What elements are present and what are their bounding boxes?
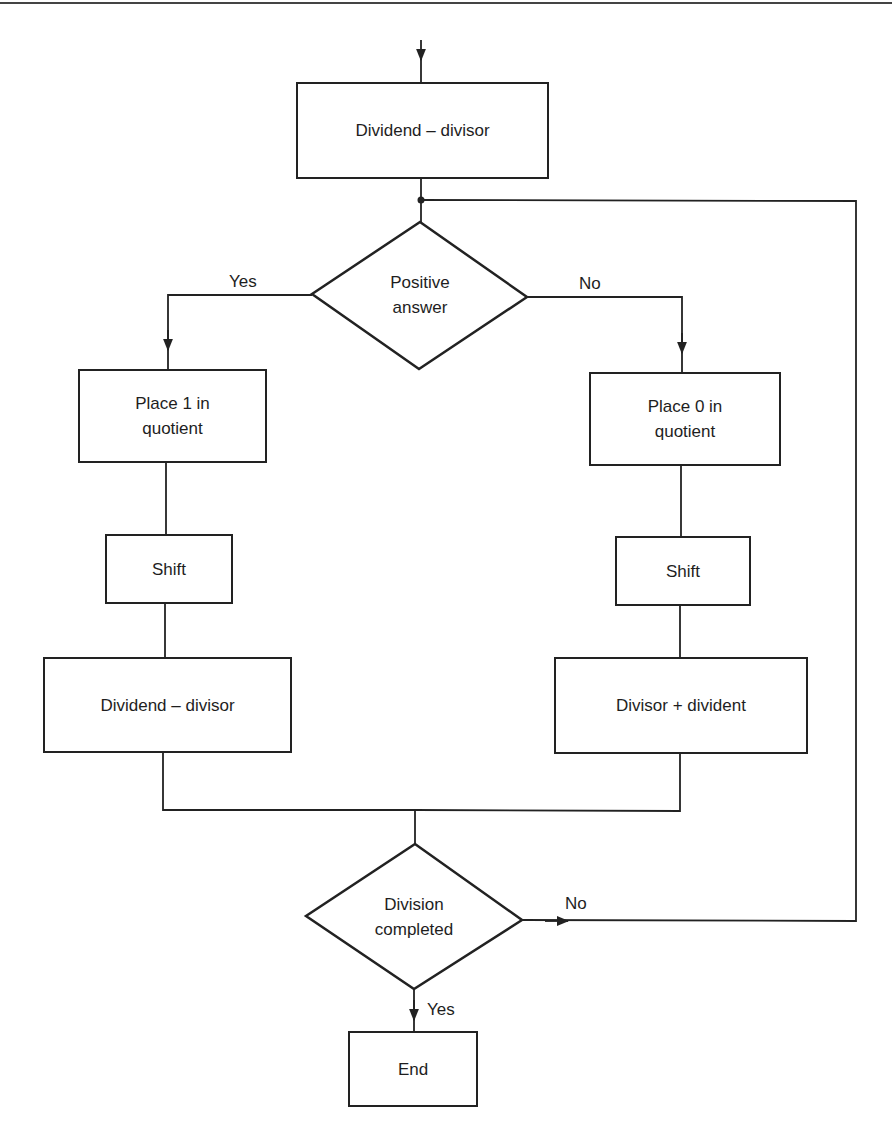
label-line2: answer [360,295,480,320]
node-end: End [348,1031,478,1107]
decision-positive-label: Positive answer [360,270,480,320]
junction-dot [418,197,425,204]
node-shift-left: Shift [105,534,233,604]
merge-right-line [415,754,680,811]
node-place-one: Place 1 in quotient [78,369,267,463]
yes-branch-line [168,295,312,369]
node-add-right: Divisor + divident [554,657,808,754]
decision-completed-label: Division completed [354,892,474,942]
node-label: Divisor + divident [616,693,746,718]
node-start-subtract: Dividend – divisor [296,82,549,179]
node-subtract-left: Dividend – divisor [43,657,292,753]
edge-label-completed-no: No [565,894,587,914]
node-place-zero: Place 0 in quotient [589,372,781,466]
edge-label-positive-no: No [579,274,601,294]
node-label-line2: quotient [655,419,716,444]
label-line1: Positive [360,270,480,295]
node-shift-right: Shift [615,536,751,606]
label-line1: Division [354,892,474,917]
node-label: Dividend – divisor [100,693,234,718]
node-label-line1: Place 1 in [135,391,210,416]
node-label-line1: Place 0 in [648,394,723,419]
node-label: Shift [152,557,186,582]
edge-label-positive-yes: Yes [229,272,257,292]
merge-left-line [163,753,415,810]
label-line2: completed [354,917,474,942]
node-label-line2: quotient [142,416,203,441]
node-label: Shift [666,559,700,584]
no-branch-line [527,297,682,372]
node-label: Dividend – divisor [355,118,489,143]
node-label: End [398,1057,428,1082]
edge-label-completed-yes: Yes [427,1000,455,1020]
